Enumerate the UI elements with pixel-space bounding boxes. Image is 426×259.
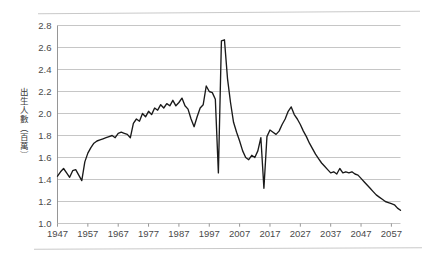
plot-svg	[0, 0, 426, 259]
data-line-births	[58, 40, 401, 211]
plot-area	[0, 0, 426, 259]
gridlines	[58, 26, 401, 224]
x-tick-marks	[58, 224, 392, 227]
birth-rate-chart-figure: 出生人數（百萬） 2.82.62.42.22.01.81.61.41.21.0 …	[0, 0, 426, 259]
